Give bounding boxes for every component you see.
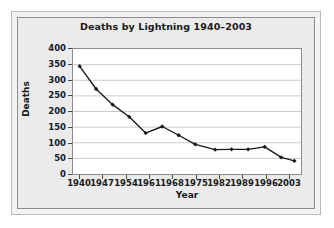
x-axis-title: Year	[72, 190, 302, 200]
y-tick-label: 300	[32, 76, 66, 85]
data-point-marker	[229, 147, 233, 151]
plot-area	[72, 48, 302, 175]
y-tick-label: 350	[32, 60, 66, 69]
y-tick-label: 50	[32, 154, 66, 163]
gridlines	[73, 65, 301, 159]
x-tick-label: 2003	[272, 178, 306, 188]
data-point-marker	[246, 147, 250, 151]
chart-title: Deaths by Lightning 1940–2003	[17, 21, 315, 32]
figure-root: Deaths by Lightning 1940–2003 Deaths 400…	[0, 0, 334, 228]
data-point-marker	[292, 159, 296, 163]
y-tick-label: 150	[32, 123, 66, 132]
y-tick-label: 250	[32, 91, 66, 100]
y-axis-title: Deaths	[21, 69, 31, 129]
series-markers	[77, 64, 296, 163]
data-point-marker	[213, 147, 217, 151]
y-tick-label: 400	[32, 44, 66, 53]
series-plot	[73, 49, 301, 174]
y-tick-label: 200	[32, 107, 66, 116]
y-tick-label: 100	[32, 139, 66, 148]
y-tick-label: 0	[32, 170, 66, 179]
